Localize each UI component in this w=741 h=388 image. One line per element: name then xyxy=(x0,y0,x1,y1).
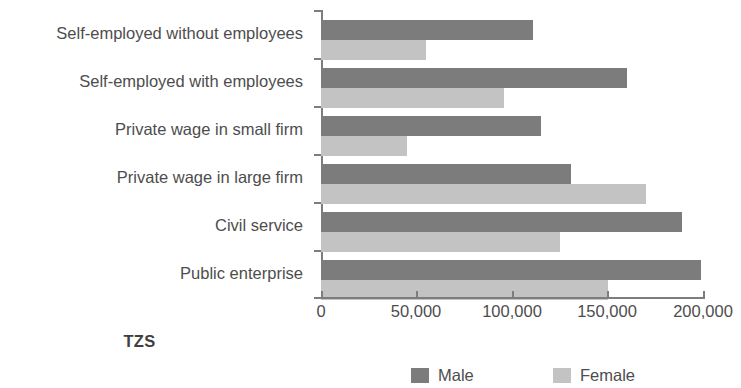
bar-male xyxy=(321,260,701,280)
x-axis-tick-label: 100,000 xyxy=(482,303,542,320)
x-axis-tick-label: 0 xyxy=(316,303,325,320)
x-axis-tick-label: 50,000 xyxy=(391,303,441,320)
category-label: Self-employed without employees xyxy=(0,25,303,42)
x-axis-tick xyxy=(321,291,323,298)
x-axis-title: TZS xyxy=(123,332,155,350)
legend-item-female: Female xyxy=(553,364,635,386)
category-axis-labels: Self-employed without employees Self-emp… xyxy=(0,10,311,298)
x-axis-tick xyxy=(512,291,514,298)
x-axis-tick xyxy=(416,291,418,298)
category-label: Self-employed with employees xyxy=(0,73,303,90)
bar-female xyxy=(321,136,407,156)
male-swatch-icon xyxy=(411,368,429,383)
bar-female xyxy=(321,184,646,204)
bar-female xyxy=(321,88,504,108)
category-label: Civil service xyxy=(0,217,303,234)
bar-female xyxy=(321,232,560,252)
category-label: Private wage in large firm xyxy=(0,169,303,186)
bar-male xyxy=(321,68,627,88)
bar-male xyxy=(321,212,682,232)
category-label: Private wage in small firm xyxy=(0,121,303,138)
x-axis-tick xyxy=(703,291,705,298)
legend-item-male: Male xyxy=(411,364,474,386)
bar-male xyxy=(321,20,533,40)
x-axis-tick-label: 150,000 xyxy=(577,303,637,320)
chart-legend: Male Female xyxy=(0,364,741,386)
bar-chart: Self-employed without employees Self-emp… xyxy=(0,0,741,388)
category-label: Public enterprise xyxy=(0,265,303,282)
plot-area xyxy=(321,10,703,298)
x-axis-title-wrap: TZS xyxy=(0,332,741,351)
bar-male xyxy=(321,116,541,136)
bar-male xyxy=(321,164,571,184)
x-axis-tick-label: 200,000 xyxy=(673,303,733,320)
legend-label-female: Female xyxy=(580,367,635,384)
x-axis-tick xyxy=(607,291,609,298)
female-swatch-icon xyxy=(553,368,571,383)
legend-label-male: Male xyxy=(438,367,474,384)
bar-female xyxy=(321,40,426,60)
